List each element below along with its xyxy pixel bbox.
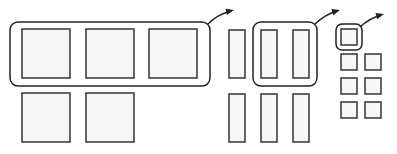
block	[365, 78, 381, 94]
block	[22, 93, 70, 142]
group-large-squares	[10, 9, 234, 142]
block	[341, 102, 357, 118]
block	[341, 29, 357, 45]
arrowhead-icon	[331, 9, 340, 15]
diagram-canvas	[0, 0, 397, 154]
arrowhead-icon	[375, 13, 384, 19]
block	[365, 54, 381, 70]
block	[341, 78, 357, 94]
block	[149, 29, 197, 78]
block	[293, 30, 309, 78]
block	[229, 30, 245, 78]
block	[261, 30, 277, 78]
block	[293, 94, 309, 142]
block	[86, 93, 134, 142]
group-tall-bars	[229, 9, 340, 142]
block	[86, 29, 134, 78]
block	[22, 29, 70, 78]
block	[341, 54, 357, 70]
block	[365, 102, 381, 118]
group-small-squares	[336, 13, 384, 118]
arrowhead-icon	[225, 9, 234, 15]
block	[229, 94, 245, 142]
block	[261, 94, 277, 142]
